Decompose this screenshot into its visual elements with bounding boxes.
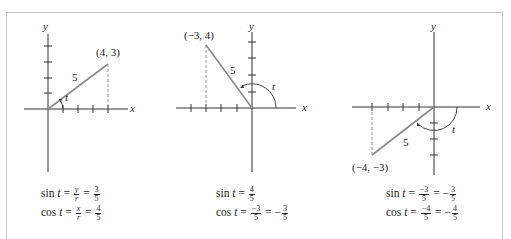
radius-line <box>206 45 252 108</box>
equals: = <box>433 187 440 199</box>
variable: t <box>402 187 405 199</box>
fraction: −45 <box>421 205 432 222</box>
denominator: 5 <box>249 195 255 203</box>
equals: = <box>265 206 272 218</box>
panel-quadrant-3: y x (−4, −3) 5 t <box>352 20 491 175</box>
denominator: 5 <box>253 214 259 222</box>
equals: = <box>83 187 90 199</box>
angle-label: t <box>452 123 456 135</box>
denominator: 5 <box>450 195 456 203</box>
angle-arc <box>242 84 276 108</box>
variable: t <box>57 187 60 199</box>
variable: t <box>232 187 235 199</box>
fraction: 35 <box>94 186 100 203</box>
radius-label: 5 <box>72 71 78 83</box>
function-name: cos <box>386 206 401 218</box>
equals: = <box>85 206 92 218</box>
function-name: sin <box>41 187 54 199</box>
variable: t <box>59 206 62 218</box>
formula-sin-3: sin t = −35 = −35 <box>386 184 457 203</box>
panel-quadrant-2: y x (−3, 4) 5 t <box>176 20 307 172</box>
formula-cos-1: cos t = xr = 45 <box>41 203 102 222</box>
fraction: xr <box>76 205 82 222</box>
axes <box>176 32 296 172</box>
minus-sign: − <box>274 206 281 218</box>
fraction: −35 <box>251 205 262 222</box>
radius-label: 5 <box>230 64 236 76</box>
point-label: (−4, −3) <box>352 161 389 174</box>
fraction: −35 <box>419 186 430 203</box>
minus-sign: − <box>444 206 451 218</box>
equals: = <box>435 206 442 218</box>
angle-arc <box>60 100 63 109</box>
fraction: 35 <box>450 186 456 203</box>
angle-label: t <box>272 80 276 92</box>
denominator: r <box>74 195 79 203</box>
denominator: 5 <box>282 214 288 222</box>
axes <box>352 32 480 175</box>
x-axis-label: x <box>301 101 307 113</box>
formula-sin-2: sin t = 45 <box>216 184 256 203</box>
fraction: 45 <box>249 186 255 203</box>
fraction: 35 <box>282 205 288 222</box>
denominator: 5 <box>94 195 100 203</box>
variable: t <box>234 206 237 218</box>
denominator: r <box>76 214 81 222</box>
function-name: sin <box>386 187 399 199</box>
fraction: 45 <box>452 205 458 222</box>
arrow-head-icon <box>417 122 420 126</box>
denominator: 5 <box>421 195 427 203</box>
panel-quadrant-1: y x (4, 3) 5 t <box>24 20 135 172</box>
point-label: (4, 3) <box>96 46 120 59</box>
y-axis-label: y <box>248 20 254 32</box>
formula-cos-2: cos t = −35 = −35 <box>216 203 289 222</box>
denominator: 5 <box>423 214 429 222</box>
minus-sign: − <box>443 187 450 199</box>
function-name: cos <box>216 206 231 218</box>
function-name: sin <box>216 187 229 199</box>
denominator: 5 <box>452 214 458 222</box>
x-axis-label: x <box>129 102 135 114</box>
function-name: cos <box>41 206 56 218</box>
fraction: 45 <box>95 205 101 222</box>
radius-line <box>48 64 108 109</box>
formula-sin-1: sin t = yr = 35 <box>41 184 101 203</box>
radius-label: 5 <box>403 136 409 148</box>
denominator: 5 <box>95 214 101 222</box>
formula-cos-3: cos t = −45 = −45 <box>386 203 459 222</box>
point-label: (−3, 4) <box>184 29 214 42</box>
y-axis-label: y <box>42 20 48 32</box>
x-axis-label: x <box>485 100 491 112</box>
variable: t <box>404 206 407 218</box>
fraction: yr <box>74 186 80 203</box>
y-axis-label: y <box>430 20 436 32</box>
